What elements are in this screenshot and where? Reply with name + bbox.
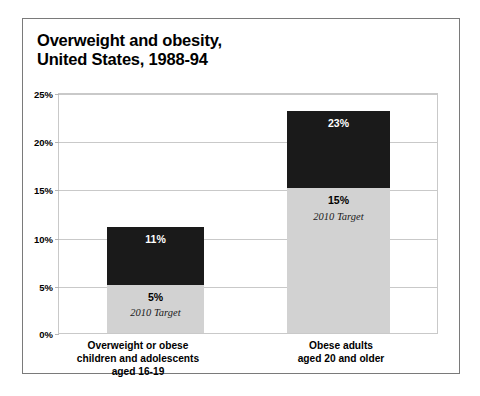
gridline-25: 25% [59, 94, 437, 95]
bar-value-label-children-current: 11% [145, 234, 165, 245]
tick-mark-5 [55, 287, 59, 288]
tick-mark-20 [55, 142, 59, 143]
bar-segment-current-children[interactable]: 11% [107, 227, 204, 285]
bar-segment-target-children[interactable]: 5% 2010 Target [107, 285, 204, 333]
plot-area: 25% 20% 15% 10% 5% 0% 11% 5% [58, 93, 438, 334]
category-label-obese-adults: Obese adults aged 20 and older [251, 340, 431, 366]
bar-obese-adults[interactable]: 23% 15% 2010 Target [287, 111, 390, 333]
bar-value-label-children-target: 5% [148, 292, 163, 303]
bar-note-children-target: 2010 Target [130, 308, 180, 319]
bar-segment-current-adults[interactable]: 23% [287, 111, 390, 188]
y-axis-label-0: 0% [39, 329, 53, 340]
bar-segment-target-adults[interactable]: 15% 2010 Target [287, 188, 390, 333]
bar-children-adolescents[interactable]: 11% 5% 2010 Target [107, 227, 204, 333]
bar-note-adults-target: 2010 Target [313, 212, 363, 223]
tick-mark-0 [55, 334, 59, 335]
bar-value-label-adults-target: 15% [328, 195, 349, 206]
tick-mark-10 [55, 239, 59, 240]
tick-mark-25 [55, 94, 59, 95]
y-axis-label-10: 10% [34, 233, 53, 244]
y-axis-label-20: 20% [34, 137, 53, 148]
chart-figure: Overweight and obesity, United States, 1… [22, 18, 460, 374]
y-axis-label-15: 15% [34, 185, 53, 196]
y-axis-label-25: 25% [34, 89, 53, 100]
bar-value-label-adults-current: 23% [328, 118, 349, 129]
y-axis-label-5: 5% [39, 281, 53, 292]
gridline-0: 0% [59, 334, 437, 335]
tick-mark-15 [55, 190, 59, 191]
category-label-children-adolescents: Overweight or obese children and adolesc… [43, 340, 233, 378]
chart-title: Overweight and obesity, United States, 1… [37, 31, 222, 70]
